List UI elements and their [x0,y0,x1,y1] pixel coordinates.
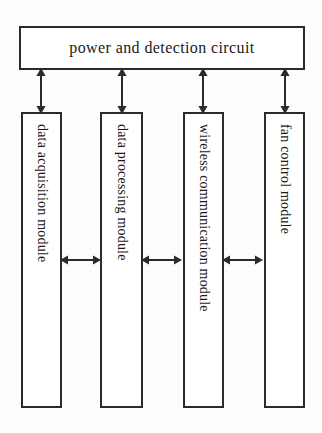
connector-data-acquisition-to-data-processing [60,252,101,268]
connector-power-to-data-acquisition [33,68,49,114]
connector-power-to-wireless-communication [195,68,211,114]
block-fan-control-module: fan control module [264,112,305,408]
connector-wireless-communication-to-fan-control [222,252,263,268]
block-label-wireless-communication-module: wireless communication module [197,124,211,312]
block-label-power-and-detection-circuit: power and detection circuit [69,40,254,56]
connector-power-to-fan-control [277,68,293,114]
connector-power-to-data-processing [114,68,130,114]
connector-data-processing-to-wireless-communication [141,252,182,268]
block-diagram: power and detection circuit [0,0,322,433]
block-label-data-processing-module: data processing module [115,124,129,261]
block-wireless-communication-module: wireless communication module [183,112,224,408]
block-data-processing-module: data processing module [100,112,143,408]
block-power-and-detection-circuit: power and detection circuit [19,26,305,70]
block-data-acquisition-module: data acquisition module [21,112,62,408]
block-label-fan-control-module: fan control module [278,124,292,234]
block-label-data-acquisition-module: data acquisition module [35,124,49,262]
